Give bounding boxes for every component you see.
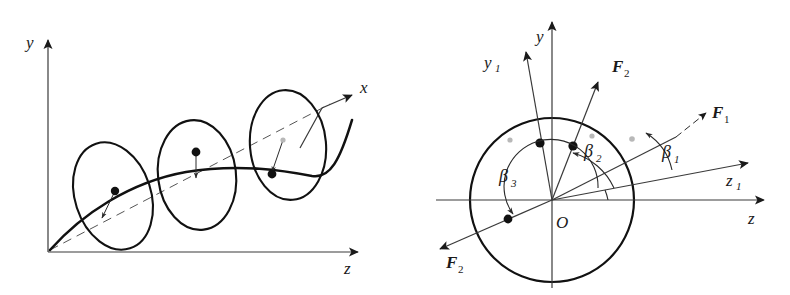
- vector-F2-upper-label-group: F 2: [611, 57, 630, 79]
- F2-upper-rim-node: [589, 133, 594, 138]
- right-diagram: y z y 1 z 1 O F 1 F 2: [436, 22, 764, 288]
- angle-beta3-label-group: β 3: [498, 166, 517, 189]
- left-diagram: y z x: [24, 33, 368, 278]
- left-x-axis-label: x: [359, 78, 368, 97]
- right-z-axis-label: z: [747, 209, 755, 228]
- vector-F1-arrow: [676, 113, 706, 137]
- angle-beta1-label-group: β 1: [661, 142, 680, 165]
- vector-F2-upper-sub: 2: [624, 67, 630, 79]
- left-z-axis-label: z: [343, 259, 351, 278]
- right-z1-axis: [552, 163, 748, 200]
- F1-rim-node: [629, 136, 635, 142]
- vector-F2-lower-sub: 2: [458, 263, 464, 275]
- right-y1-axis-sub: 1: [495, 62, 501, 74]
- disk-3-center-dot: [268, 170, 277, 179]
- right-y-axis-label: y: [534, 27, 544, 46]
- angle-beta2-label: β: [583, 141, 593, 161]
- right-y1-axis-label: y: [482, 53, 492, 72]
- disk-1-center-dot: [111, 187, 119, 195]
- left-disk-2: [152, 116, 243, 235]
- left-y-axis-label: y: [24, 33, 34, 52]
- left-disk-3: [245, 87, 330, 203]
- vector-F2-upper-label: F: [611, 57, 624, 76]
- disk-3-outline: [245, 87, 330, 203]
- vector-F1-sub: 1: [724, 113, 730, 125]
- vector-F1-label: F: [711, 103, 724, 122]
- vector-F1-label-group: F 1: [711, 103, 730, 125]
- angle-beta3-sub: 3: [510, 177, 517, 189]
- figure-canvas: y z x: [0, 0, 790, 295]
- vector-F2-lower: [440, 200, 552, 249]
- angle-beta1-label: β: [661, 142, 671, 162]
- disk-2-center-dot: [192, 148, 201, 157]
- vector-F2-lower-label-group: F 2: [445, 253, 464, 275]
- vector-F2-lower-label: F: [445, 253, 458, 272]
- right-z1-axis-label: z: [725, 171, 733, 190]
- origin-label: O: [556, 213, 568, 232]
- figure-root: y z x: [0, 0, 790, 295]
- beta2-arc: [573, 153, 614, 188]
- angle-beta2-sub: 2: [596, 152, 602, 164]
- z-to-z1-arc: [605, 190, 608, 200]
- angle-beta2-label-group: β 2: [583, 141, 602, 164]
- angle-beta1-sub: 1: [674, 153, 680, 165]
- right-y1-axis-label-group: y 1: [482, 53, 501, 74]
- right-y1-axis: [526, 52, 552, 200]
- right-z1-axis-label-group: z 1: [725, 171, 742, 192]
- left-disk-1: [60, 132, 166, 260]
- disk-2-outline: [152, 116, 243, 235]
- beta3-rim-node: [507, 137, 512, 142]
- disk-3-axis-node: [280, 137, 285, 142]
- angle-beta3-label: β: [498, 166, 508, 186]
- right-z1-axis-sub: 1: [736, 180, 742, 192]
- F2-lower-mass-dot: [504, 215, 513, 224]
- disk-3-radius: [272, 140, 283, 172]
